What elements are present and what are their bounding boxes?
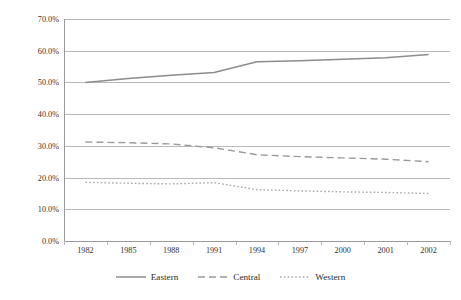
y-tick-label: 30.0% (38, 141, 59, 150)
x-tick-label-2001: 2001 (377, 246, 393, 255)
x-tick-mark (236, 241, 237, 245)
series-line-eastern (85, 55, 428, 83)
y-tick-label: 70.0% (38, 15, 59, 24)
legend-item-central[interactable]: Central (198, 272, 260, 282)
x-tick-mark (64, 241, 65, 245)
x-tick-label-2000: 2000 (335, 246, 351, 255)
legend-item-eastern[interactable]: Eastern (116, 272, 179, 282)
x-tick-mark (407, 241, 408, 245)
legend-label: Western (315, 272, 345, 282)
x-tick-label-1982: 1982 (77, 246, 93, 255)
x-axis-tick-labels: 198219851988199119941997200020012002 (64, 246, 450, 262)
x-tick-mark (321, 241, 322, 245)
chart-legend: EasternCentralWestern (0, 272, 461, 282)
y-tick-label: 60.0% (38, 46, 59, 55)
x-tick-label-1985: 1985 (120, 246, 136, 255)
series-lines (64, 19, 450, 241)
legend-label: Central (233, 272, 260, 282)
x-tick-label-1988: 1988 (163, 246, 179, 255)
y-tick-label: 20.0% (38, 173, 59, 182)
y-tick-label: 40.0% (38, 110, 59, 119)
y-axis-tick-labels: 0.0%10.0%20.0%30.0%40.0%50.0%60.0%70.0% (0, 19, 59, 241)
legend-label: Eastern (151, 272, 179, 282)
x-tick-mark (107, 241, 108, 245)
line-chart: 0.0%10.0%20.0%30.0%40.0%50.0%60.0%70.0% … (0, 0, 461, 300)
y-tick-label: 0.0% (42, 237, 59, 246)
x-axis-line (64, 241, 450, 242)
legend-item-western[interactable]: Western (280, 272, 345, 282)
y-tick-label: 50.0% (38, 78, 59, 87)
y-tick-label: 10.0% (38, 205, 59, 214)
x-tick-mark (150, 241, 151, 245)
x-tick-mark (450, 241, 451, 245)
x-tick-mark (193, 241, 194, 245)
legend-swatch-eastern-icon (116, 273, 146, 281)
x-tick-mark (364, 241, 365, 245)
series-line-central (85, 142, 428, 162)
legend-swatch-central-icon (198, 273, 228, 281)
legend-swatch-western-icon (280, 273, 310, 281)
x-tick-label-2002: 2002 (420, 246, 436, 255)
x-tick-mark (278, 241, 279, 245)
x-tick-label-1994: 1994 (249, 246, 265, 255)
x-tick-label-1991: 1991 (206, 246, 222, 255)
series-line-western (85, 182, 428, 193)
x-tick-label-1997: 1997 (292, 246, 308, 255)
